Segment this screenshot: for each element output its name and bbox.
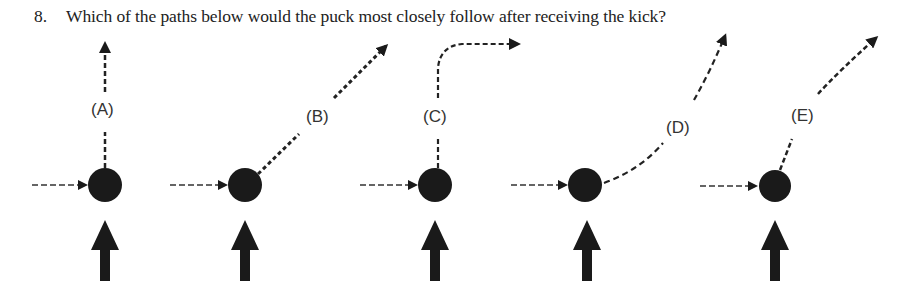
puck-c: [418, 168, 452, 202]
puck-paths-diagram: (A) (B) (C) (D) (E): [0, 0, 907, 299]
kick-arrow-c: [421, 220, 449, 281]
path-b-lower: [258, 134, 299, 174]
path-d-upper: [694, 36, 725, 100]
path-b-upper: [334, 46, 386, 98]
label-e: (E): [791, 106, 814, 125]
option-a: (A): [32, 44, 122, 281]
path-c-upper: [438, 44, 518, 98]
label-d: (D): [666, 118, 690, 137]
label-b: (B): [306, 107, 329, 126]
kick-arrow-e: [761, 220, 789, 281]
puck-b: [228, 168, 262, 202]
puck-e: [759, 170, 791, 202]
option-b: (B): [170, 46, 386, 281]
path-e-upper: [818, 38, 876, 94]
label-c: (C): [423, 107, 447, 126]
option-e: (E): [700, 38, 876, 281]
path-e-lower: [780, 139, 792, 170]
kick-arrow-d: [573, 220, 601, 281]
option-c: (C): [360, 44, 518, 281]
puck-a: [88, 168, 122, 202]
puck-d: [568, 168, 602, 202]
label-a: (A): [91, 100, 114, 119]
option-d: (D): [511, 36, 725, 281]
kick-arrow-b: [231, 220, 259, 281]
kick-arrow-a: [91, 220, 119, 281]
path-d-lower: [604, 143, 663, 183]
